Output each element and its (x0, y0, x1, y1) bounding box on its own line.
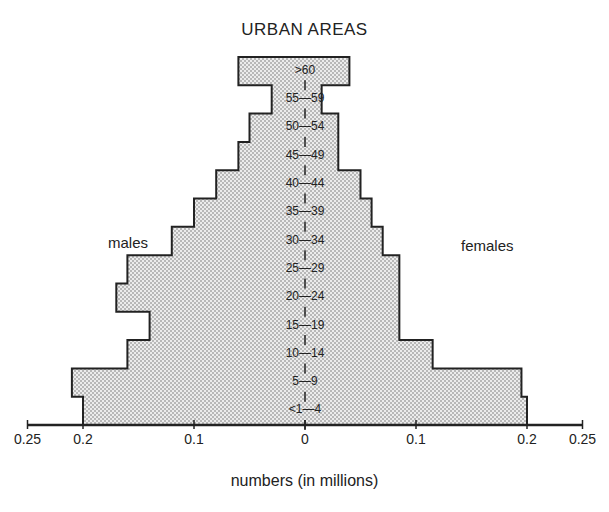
age-group-label: 35—39 (286, 204, 325, 218)
males-label: males (108, 234, 148, 251)
age-group-label: <1—4 (289, 402, 321, 416)
x-axis-label: numbers (in millions) (0, 472, 609, 490)
x-tick-label: 0.2 (73, 431, 92, 447)
age-group-label: 50—54 (286, 119, 325, 133)
x-tick-label: 0.2 (517, 431, 536, 447)
chart-title: URBAN AREAS (0, 20, 609, 40)
age-group-label: 5—9 (292, 374, 317, 388)
age-group-label: >60 (295, 63, 315, 77)
age-group-label: 55—59 (286, 91, 325, 105)
x-tick-label: 0 (301, 431, 309, 447)
age-group-label: 20—24 (286, 289, 325, 303)
females-label: females (461, 237, 514, 254)
age-group-label: 25—29 (286, 261, 325, 275)
age-group-label: 45—49 (286, 148, 325, 162)
x-tick-label: 0.1 (184, 431, 203, 447)
age-group-label: 10—14 (286, 346, 325, 360)
age-group-label: 30—34 (286, 233, 325, 247)
x-tick-label: 0.1 (406, 431, 425, 447)
age-group-label: 15—19 (286, 318, 325, 332)
age-group-label: 40—44 (286, 176, 325, 190)
x-tick-label: 0.25 (14, 431, 41, 447)
x-tick-label: 0.25 (569, 431, 596, 447)
